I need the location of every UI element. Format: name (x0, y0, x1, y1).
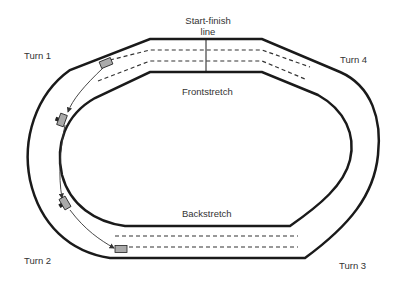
turn3-label: Turn 3 (339, 260, 366, 271)
car-icon-turn2-mid (56, 196, 71, 211)
frontstretch-label: Frontstretch (182, 86, 233, 97)
turn4-label: Turn 4 (340, 54, 367, 65)
start-finish-label: Start-finish line (183, 15, 233, 38)
start-finish-label-line1: Start-finish (183, 15, 233, 26)
start-finish-label-line2: line (183, 26, 233, 37)
backstretch-label: Backstretch (182, 208, 232, 219)
turn1-label: Turn 1 (24, 50, 51, 61)
car-icon-turn1-mid (54, 112, 68, 127)
car-icon-turn2-exit (115, 246, 127, 253)
race-track-diagram (0, 0, 412, 283)
turn2-label: Turn 2 (24, 255, 51, 266)
